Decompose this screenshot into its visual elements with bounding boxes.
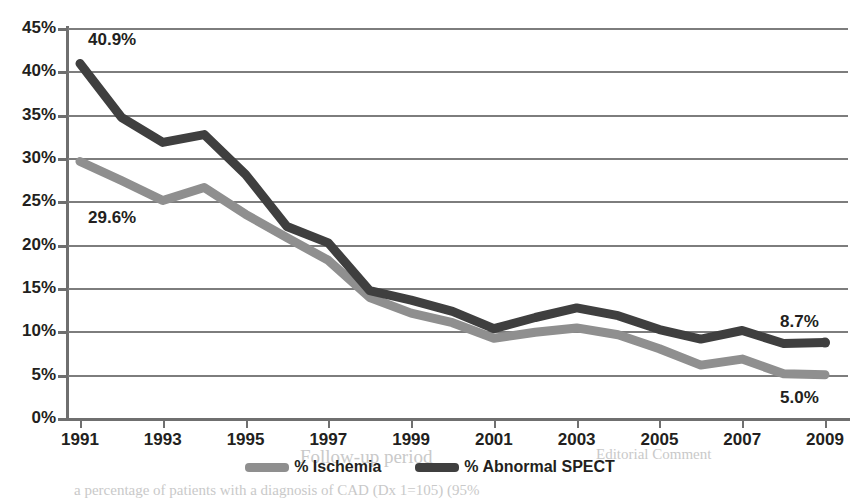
data-label-end-abnormal-spect: 8.7%	[780, 312, 819, 332]
y-axis-tick-label: 15%	[0, 278, 56, 298]
y-axis-tick-label: 10%	[0, 321, 56, 341]
x-axis-tick-label: 1999	[376, 430, 446, 450]
legend-label: % Abnormal SPECT	[464, 458, 615, 476]
gridline	[68, 331, 848, 333]
legend-swatch-icon	[415, 463, 459, 472]
y-axis-tick-label: 0%	[0, 408, 56, 428]
y-axis-tick-label: 40%	[0, 61, 56, 81]
y-axis-tick-label: 20%	[0, 235, 56, 255]
x-axis-tick	[246, 418, 248, 428]
x-axis-tick	[80, 418, 82, 428]
x-axis-tick	[328, 418, 330, 428]
y-axis-tick-label: 5%	[0, 365, 56, 385]
bleed-text-bottom: a percentage of patients with a diagnosi…	[74, 482, 479, 499]
chart-container: Editorial Comment Follow-up period a per…	[0, 0, 860, 500]
x-axis-tick	[411, 418, 413, 428]
gridline	[68, 245, 848, 247]
x-axis-tick-label: 2001	[459, 430, 529, 450]
gridline	[68, 115, 848, 117]
x-axis-tick	[163, 418, 165, 428]
legend-item[interactable]: % Abnormal SPECT	[415, 458, 615, 476]
y-axis-tick-label: 45%	[0, 18, 56, 38]
y-axis-tick-label: 25%	[0, 191, 56, 211]
gridline	[68, 201, 848, 203]
x-axis-tick-label: 2005	[624, 430, 694, 450]
x-axis-tick	[742, 418, 744, 428]
x-axis-tick-label: 2009	[790, 430, 860, 450]
legend-item[interactable]: % Ischemia	[245, 458, 381, 476]
data-label-end-ischemia: 5.0%	[780, 388, 819, 408]
data-label-start-ischemia: 29.6%	[88, 208, 136, 228]
x-axis-tick	[494, 418, 496, 428]
legend-swatch-icon	[245, 463, 289, 472]
gridline	[68, 288, 848, 290]
x-axis-tick-label: 1993	[128, 430, 198, 450]
gridline	[68, 28, 848, 30]
gridline	[68, 71, 848, 73]
x-axis-tick	[825, 418, 827, 428]
x-axis-line	[66, 418, 850, 421]
chart-legend: % Ischemia% Abnormal SPECT	[0, 458, 860, 476]
data-label-start-abnormal-spect: 40.9%	[88, 30, 136, 50]
x-axis-tick-label: 2003	[542, 430, 612, 450]
y-axis-tick-label: 35%	[0, 105, 56, 125]
x-axis-tick-label: 1997	[293, 430, 363, 450]
x-axis-tick	[659, 418, 661, 428]
y-axis-tick-label: 30%	[0, 148, 56, 168]
x-axis-tick	[577, 418, 579, 428]
gridline	[68, 158, 848, 160]
x-axis-tick-label: 2007	[707, 430, 777, 450]
gridline	[68, 375, 848, 377]
x-axis-tick-label: 1995	[211, 430, 281, 450]
plot-area	[68, 28, 848, 418]
x-axis-tick-label: 1991	[45, 430, 115, 450]
legend-label: % Ischemia	[294, 458, 381, 476]
